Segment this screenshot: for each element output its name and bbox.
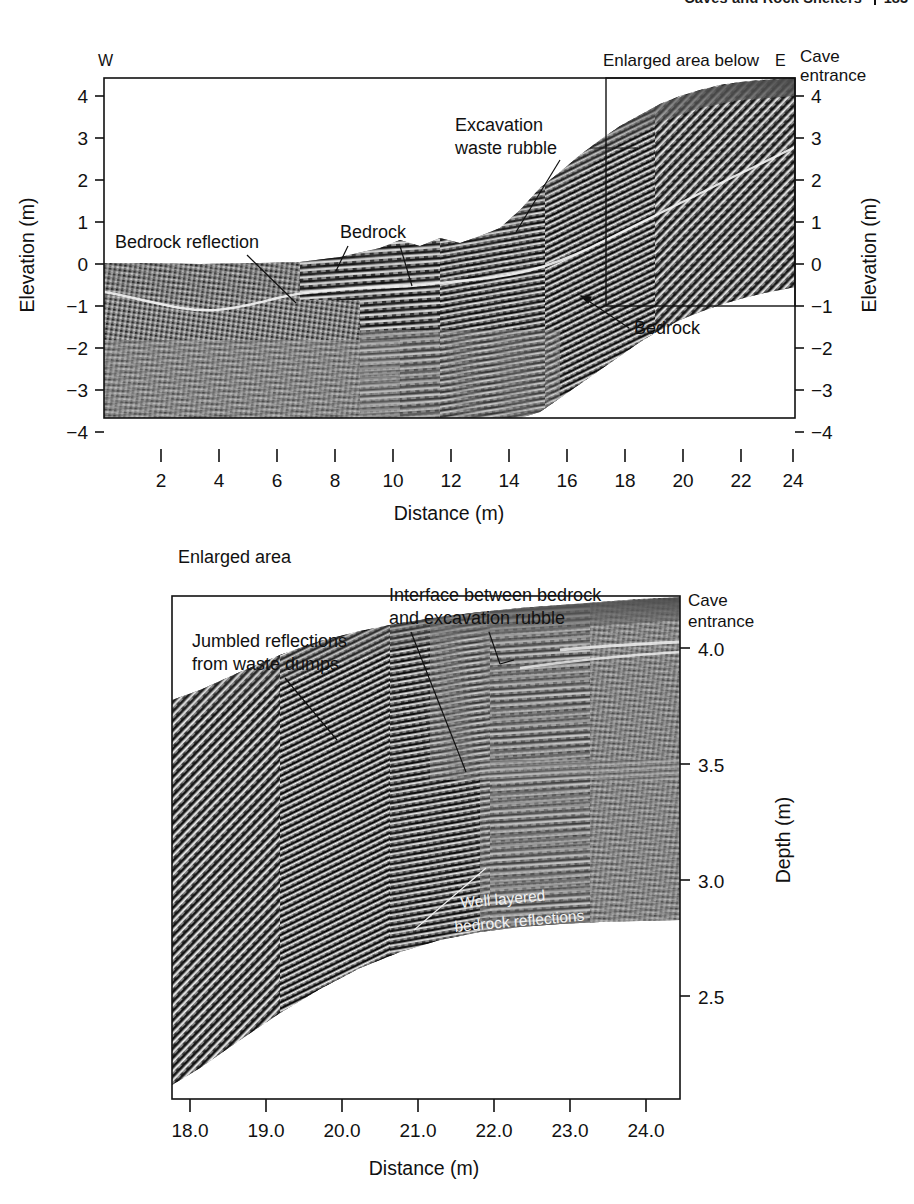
top-x-tick-11: 24 [782,470,804,491]
annotation-bedrock-lower-text: Bedrock [634,318,701,338]
running-head-rule [874,0,876,5]
bottom-panel-x-axis-title: Distance (m) [369,1157,480,1179]
running-head-page-number: 183 [884,0,908,6]
bottom-x-tick-1: 19.0 [248,1120,285,1141]
top-x-tick-6: 14 [498,470,520,491]
top-x-tick-2: 6 [272,470,283,491]
bottom-panel-x-axis: 18.0 19.0 20.0 21.0 22.0 23.0 24.0 Dista… [172,1099,665,1179]
annotation-bedrock-mid-text: Bedrock [340,222,407,242]
annotation-bedrock-reflection-text: Bedrock reflection [115,232,259,252]
bottom-x-tick-3: 21.0 [400,1120,437,1141]
top-y-right-tick-1: 3 [811,128,822,149]
top-x-tick-1: 4 [214,470,225,491]
bottom-panel-y-axis-title: Depth (m) [772,797,794,884]
top-panel-y-axis-left: 4 3 2 1 0 −1 −2 −3 −4 Elevation (m) [16,86,104,443]
bottom-y-tick-1: 3.5 [698,755,724,776]
bottom-x-tick-6: 24.0 [628,1120,665,1141]
top-x-tick-0: 2 [156,470,167,491]
top-x-tick-8: 18 [614,470,635,491]
top-panel-y-axis-left-title: Elevation (m) [16,198,38,313]
annotation-jumbled-reflections-line2: from waste dumps [192,654,339,674]
bottom-y-tick-0: 4.0 [698,639,724,660]
bottom-panel: Enlarged area Cave entrance [172,547,794,1179]
top-panel-x-axis-title: Distance (m) [394,502,505,524]
top-y-right-tick-7: −3 [811,380,833,401]
bottom-x-tick-5: 23.0 [552,1120,589,1141]
bottom-x-tick-2: 20.0 [324,1120,361,1141]
top-y-left-tick-6: −2 [66,338,88,359]
top-y-left-tick-5: −1 [66,296,88,317]
top-y-right-tick-2: 2 [811,170,822,191]
top-y-left-tick-0: 4 [77,86,88,107]
annotation-excavation-waste-rubble-line2: waste rubble [454,138,557,158]
bottom-x-tick-0: 18.0 [172,1120,209,1141]
figure-root: Caves and Rock Shelters 183 [0,0,914,1204]
annotation-interface-line2: and excavation rubble [389,608,565,628]
top-panel: W E Enlarged area below Cave entrance [16,47,880,524]
top-panel-west-label: W [98,52,114,69]
top-panel-y-axis-right-title: Elevation (m) [858,198,880,313]
bottom-x-tick-4: 22.0 [476,1120,513,1141]
top-panel-x-axis: 2 4 6 8 10 12 14 16 18 20 22 24 Distance… [156,449,804,524]
annotation-jumbled-reflections-line1: Jumbled reflections [192,631,347,651]
gpr-figure-svg: W E Enlarged area below Cave entrance [0,0,914,1204]
top-y-right-tick-6: −2 [811,338,833,359]
top-y-right-tick-0: 4 [811,86,822,107]
top-x-tick-10: 22 [730,470,751,491]
top-y-left-tick-8: −4 [66,422,88,443]
top-panel-cave-entrance-label-line1: Cave [800,47,840,66]
top-panel-y-axis-right: 4 3 2 1 0 −1 −2 −3 −4 Elevation (m) [795,86,880,443]
bottom-panel-cave-entrance-label-line1: Cave [688,591,728,610]
enlarged-area-below-label: Enlarged area below [603,51,760,70]
top-x-tick-9: 20 [672,470,693,491]
top-panel-east-label: E [775,52,786,69]
top-y-left-tick-1: 3 [77,128,88,149]
running-head: Caves and Rock Shelters 183 [0,0,914,6]
top-y-left-tick-4: 0 [77,254,88,275]
bottom-panel-title: Enlarged area [178,547,292,567]
bottom-panel-cave-entrance-label-line2: entrance [688,612,754,631]
top-x-tick-3: 8 [330,470,341,491]
top-y-left-tick-2: 2 [77,170,88,191]
top-y-right-tick-3: 1 [811,212,822,233]
running-head-title: Caves and Rock Shelters [684,0,862,6]
top-x-tick-4: 10 [382,470,403,491]
bottom-y-tick-2: 3.0 [698,871,724,892]
annotation-excavation-waste-rubble-line1: Excavation [455,115,543,135]
annotation-interface-line1: Interface between bedrock [389,585,602,605]
top-y-right-tick-4: 0 [811,254,822,275]
top-panel-cave-entrance-label-line2: entrance [800,66,866,85]
top-x-tick-7: 16 [556,470,577,491]
top-y-right-tick-8: −4 [811,422,833,443]
top-y-left-tick-3: 1 [77,212,88,233]
bottom-panel-y-axis-right: 4.0 3.5 3.0 2.5 Depth (m) [680,639,794,1008]
top-y-left-tick-7: −3 [66,380,88,401]
top-x-tick-5: 12 [440,470,461,491]
top-y-right-tick-5: −1 [811,296,833,317]
bottom-y-tick-3: 2.5 [698,987,724,1008]
